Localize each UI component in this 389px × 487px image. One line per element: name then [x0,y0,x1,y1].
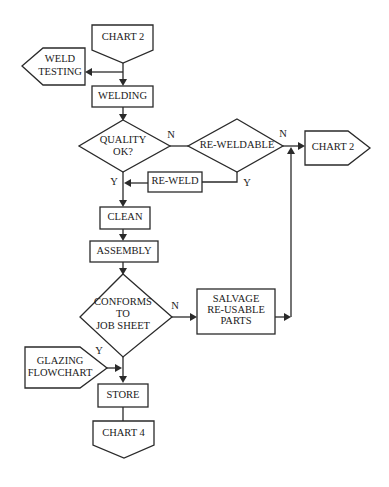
arrowhead-icon [298,142,305,150]
node-welding: WELDING [92,86,153,107]
arrowhead-icon [119,234,127,241]
conforms-yes-label: Y [95,345,103,356]
clean-label: CLEAN [108,211,143,222]
reweldable-no-label: N [279,128,287,139]
store-label: STORE [106,389,139,400]
arrowhead-icon [119,79,127,86]
chart2-right-label: CHART 2 [312,141,355,152]
node-clean: CLEAN [100,207,150,229]
node-weld-testing: WELD TESTING [22,48,85,85]
node-conforms: CONFORMS TO JOB SHEET [80,274,172,357]
quality-yes-label: Y [110,176,118,187]
arrowhead-icon [287,147,295,154]
weld-testing-label-1: WELD [45,53,76,64]
arrowhead-icon [119,200,127,207]
weld-testing-label-2: TESTING [38,66,82,77]
arrowhead-icon [124,179,131,187]
node-store: STORE [98,384,148,407]
flowchart-canvas: CHART 2 WELD TESTING WELDING QUALITY OK?… [0,0,389,487]
arrowhead-icon [119,376,127,383]
quality-label-1: QUALITY [100,134,147,145]
node-assembly: ASSEMBLY [90,241,158,262]
salvage-label-1: SALVAGE [213,293,260,304]
node-chart4: CHART 4 [93,421,154,458]
chart4-label: CHART 4 [102,427,145,438]
node-chart2-right: CHART 2 [305,131,370,165]
quality-label-2: OK? [113,146,133,157]
reweldable-label: RE-WELDABLE [200,139,275,150]
assembly-label: ASSEMBLY [97,245,152,256]
glazing-label-1: GLAZING [37,355,84,366]
conforms-label-3: JOB SHEET [96,320,151,331]
chart2-top-label: CHART 2 [102,31,145,42]
salvage-label-2: RE-USABLE [207,304,265,315]
conforms-label-1: CONFORMS [94,296,152,307]
arrowhead-icon [115,364,122,372]
salvage-label-3: PARTS [220,315,251,326]
conforms-no-label: N [171,300,179,311]
reweldable-yes-label: Y [243,177,251,188]
arrowhead-icon [284,313,291,321]
arrowhead-icon [85,68,92,76]
node-reweldable: RE-WELDABLE [188,119,283,172]
edge-reweldable-reweld [202,172,237,182]
node-reweld: RE-WELD [148,172,202,192]
reweld-label: RE-WELD [151,175,199,186]
welding-label: WELDING [98,90,147,101]
node-salvage: SALVAGE RE-USABLE PARTS [197,289,275,334]
node-chart2-top: CHART 2 [92,25,153,63]
conforms-label-2: TO [116,308,130,319]
node-quality-ok: QUALITY OK? [79,120,170,172]
glazing-label-2: FLOWCHART [28,367,93,378]
arrowhead-icon [190,313,197,321]
quality-no-label: N [167,129,175,140]
